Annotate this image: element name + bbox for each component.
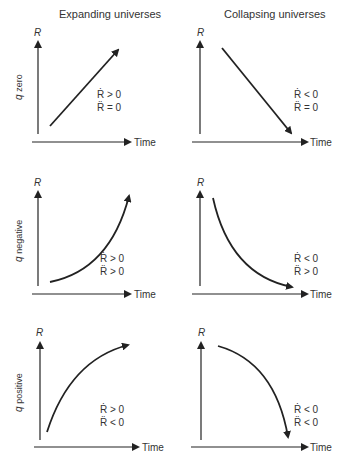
svg-text:Time: Time [310,442,332,453]
svg-text:R̈ = 0: R̈ = 0 [294,101,319,113]
svg-text:Time: Time [134,289,156,300]
row-label-q-zero: q zero [13,74,24,100]
svg-text:R̈ > 0: R̈ > 0 [100,265,125,277]
svg-text:Ṙ > 0: Ṙ > 0 [100,403,125,415]
r-label: R [34,27,41,38]
svg-text:R: R [197,27,204,38]
svg-text:R̈ < 0: R̈ < 0 [100,416,125,428]
svg-text:Ṙ < 0: Ṙ < 0 [294,252,319,264]
curve [50,50,118,126]
svg-text:Ṙ < 0: Ṙ < 0 [294,403,319,415]
panel-expanding-q-positive [34,343,138,447]
condition-rdot: Ṙ > 0 [97,88,122,100]
svg-text:q zero: q zero [13,74,24,100]
panel-expanding-q-negative [32,192,130,294]
svg-text:Time: Time [310,137,332,148]
svg-text:R: R [34,177,41,188]
svg-text:Time: Time [310,289,332,300]
panel-collapsing-q-positive [191,343,307,447]
svg-text:Ṙ < 0: Ṙ < 0 [294,88,319,100]
svg-text:R: R [198,327,205,338]
universe-diagram: R R R R R R Time Time Time Time Time Tim… [0,0,344,461]
svg-text:q negative: q negative [13,220,24,262]
svg-text:Ṙ > 0: Ṙ > 0 [100,252,125,264]
panel-collapsing-q-negative [192,192,307,294]
svg-text:R̈ > 0: R̈ > 0 [294,265,319,277]
row-label-q-positive: q positive [13,373,24,412]
panel-collapsing-q-zero [192,42,307,142]
svg-text:Time: Time [142,442,164,453]
svg-text:q positive: q positive [13,373,24,412]
svg-text:R: R [36,327,43,338]
condition-rddot: R̈ = 0 [97,101,122,113]
time-label: Time [134,137,156,148]
svg-text:R̈ < 0: R̈ < 0 [294,416,319,428]
svg-text:R: R [197,177,204,188]
row-label-q-negative: q negative [13,220,24,262]
